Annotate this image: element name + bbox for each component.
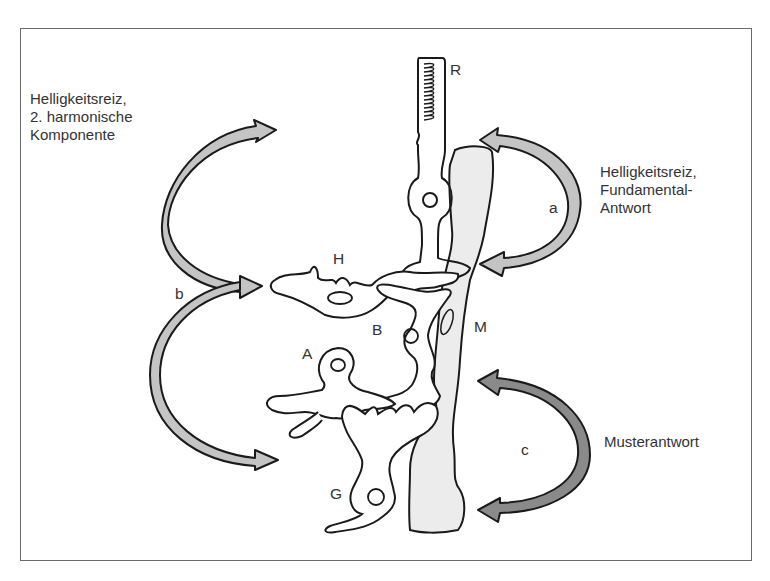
label-arrow-b: b [175,284,184,303]
left-caption-line: Helligkeitsreiz, [30,90,133,108]
right-caption-line: Fundamental- [600,181,697,199]
left-caption-line: Komponente [30,126,133,144]
label-amacrine: A [302,344,312,363]
arrow-c [478,370,590,522]
left-caption: Helligkeitsreiz, 2. harmonische Komponen… [30,90,133,144]
right-caption-bottom: Musterantwort [604,433,699,451]
label-receptor: R [450,60,461,79]
label-arrow-c: c [521,440,529,459]
right-caption-top: Helligkeitsreiz, Fundamental- Antwort [600,163,697,217]
arrow-b-upper [162,120,276,298]
label-bipolar: B [372,320,382,339]
label-muller: M [474,317,487,336]
label-arrow-a: a [549,198,558,217]
retina-diagram [0,0,770,581]
left-caption-line: 2. harmonische [30,108,133,126]
label-ganglion: G [330,484,342,503]
arrow-b-lower [150,282,278,470]
right-caption-line: Antwort [600,199,697,217]
right-caption-line: Helligkeitsreiz, [600,163,697,181]
receptor-disc-stack [424,64,434,120]
amacrine-process [290,412,322,438]
label-horizontal: H [333,249,344,268]
arrow-a [480,128,581,276]
